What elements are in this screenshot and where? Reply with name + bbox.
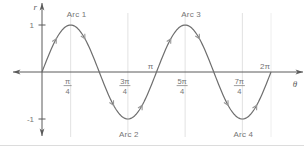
x-tick-fraction-numerator: 5π <box>177 77 186 86</box>
arc-annotation: Arc 2 <box>119 130 139 139</box>
arc-annotation: Arc 3 <box>181 10 201 19</box>
x-tick-fraction-denominator: 4 <box>180 87 184 96</box>
sine-curve-figure: rθ1-1π43π4π5π47π42π Arc 1Arc 2Arc 3Arc 4 <box>0 0 304 146</box>
y-tick-label: -1 <box>27 115 35 124</box>
x-tick-fraction-numerator: 3π <box>120 77 129 86</box>
arc-annotations: Arc 1Arc 2Arc 3Arc 4 <box>67 10 254 139</box>
y-tick-label: 1 <box>30 21 35 30</box>
x-axis-label: θ <box>293 79 298 89</box>
x-tick-label: 2π <box>260 62 270 71</box>
x-tick-fraction-denominator: 4 <box>237 87 241 96</box>
y-axis-label: r <box>33 2 37 12</box>
x-tick-fraction-numerator: 7π <box>235 77 244 86</box>
x-tick-fraction-numerator: π <box>65 77 70 86</box>
x-tick-label: π <box>148 62 154 71</box>
arc-annotation: Arc 4 <box>234 130 254 139</box>
x-tick-fraction-denominator: 4 <box>66 87 70 96</box>
arc-annotation: Arc 1 <box>67 10 87 19</box>
plot-svg: rθ1-1π43π4π5π47π42π Arc 1Arc 2Arc 3Arc 4 <box>0 0 304 146</box>
x-tick-fraction-denominator: 4 <box>123 87 127 96</box>
